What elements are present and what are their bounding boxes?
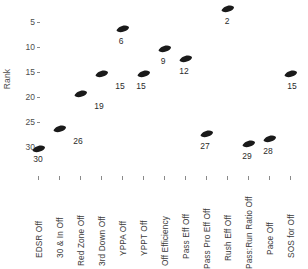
x-axis-label-pass-eff-off: Pass Eff Off: [181, 214, 191, 259]
data-point-marker[interactable]: [115, 24, 130, 33]
x-tick-mark: [59, 176, 60, 180]
x-tick-mark: [227, 176, 228, 180]
x-tick-mark: [290, 176, 291, 180]
x-tick-mark: [143, 176, 144, 180]
data-point-marker[interactable]: [220, 4, 235, 13]
y-tick-mark: [37, 22, 40, 23]
y-tick-label-25: 25: [13, 118, 35, 127]
point-value-label: 26: [69, 137, 87, 146]
y-tick-label-20: 20: [13, 93, 35, 102]
x-tick-mark: [269, 176, 270, 180]
data-point-marker[interactable]: [283, 69, 298, 78]
y-tick-mark: [37, 47, 40, 48]
point-value-label: 15: [111, 82, 129, 91]
x-axis-label-yppt-off: YPPT Off: [139, 220, 149, 256]
point-value-label: 19: [90, 102, 108, 111]
data-point-marker[interactable]: [199, 129, 214, 138]
point-value-label: 9: [154, 57, 172, 66]
y-tick-mark: [37, 72, 40, 73]
scatter-plot-area: Rank 5 10 15 20 25 30: [0, 0, 308, 269]
point-value-label: 27: [196, 142, 214, 151]
x-axis-label-rush-eff-off: Rush Eff Off: [223, 215, 233, 261]
x-tick-mark: [206, 176, 207, 180]
data-point-marker[interactable]: [136, 69, 151, 78]
point-value-label: 15: [283, 82, 301, 91]
data-point-marker[interactable]: [178, 54, 193, 63]
x-tick-mark: [248, 176, 249, 180]
x-tick-mark: [80, 176, 81, 180]
x-tick-mark: [164, 176, 165, 180]
x-axis-label-sos-for-off: SOS for Off: [286, 214, 296, 258]
y-tick-label-10: 10: [13, 43, 35, 52]
point-value-label: 2: [218, 17, 236, 26]
chart-root: Rank 5 10 15 20 25 30: [0, 0, 308, 269]
data-point-marker[interactable]: [241, 139, 256, 148]
y-tick-mark: [37, 97, 40, 98]
x-tick-mark: [38, 176, 39, 180]
x-axis-label-pace-off: Pace Off: [265, 222, 275, 255]
x-axis-label-yppa-off: YPPA Off: [118, 221, 128, 256]
x-axis-label-edsr-off: EDSR Off: [34, 221, 44, 258]
x-axis-label-3rd-down-off: 3rd Down Off: [97, 216, 107, 266]
data-point-marker[interactable]: [157, 44, 172, 53]
data-point-marker[interactable]: [31, 144, 46, 153]
y-tick-label-15: 15: [13, 68, 35, 77]
x-axis-label-red-zone-off: Red Zone Off: [76, 215, 86, 266]
point-value-label: 6: [112, 37, 130, 46]
data-point-marker[interactable]: [262, 134, 277, 143]
y-axis-label: Rank: [2, 59, 12, 99]
x-axis-label-pass-pro-eff-off: Pass Pro Eff Off: [202, 208, 212, 269]
point-value-label: 15: [132, 82, 150, 91]
point-value-label: 12: [175, 67, 193, 76]
x-axis-label-pass-run-ratio-off: Pass:Run Ratio Off: [244, 196, 254, 269]
point-value-label: 28: [259, 147, 277, 156]
x-tick-mark: [101, 176, 102, 180]
y-tick-label-5: 5: [13, 18, 35, 27]
data-point-marker[interactable]: [94, 69, 109, 78]
data-point-marker[interactable]: [52, 124, 67, 133]
x-tick-mark: [185, 176, 186, 180]
point-value-label: 30: [29, 155, 47, 164]
x-tick-mark: [122, 176, 123, 180]
x-axis-label-off-efficiency: Off Efficiency: [160, 216, 170, 266]
x-axis-label-30-in-off: 30 & In Off: [55, 217, 65, 258]
y-tick-mark: [37, 122, 40, 123]
point-value-label: 29: [238, 152, 256, 161]
data-point-marker[interactable]: [73, 89, 88, 98]
